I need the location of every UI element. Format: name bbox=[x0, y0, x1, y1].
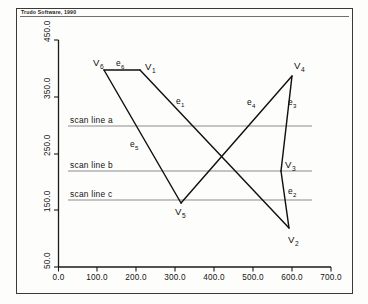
edge-e1 bbox=[140, 70, 289, 228]
x-tick-label-700: 700.0 bbox=[320, 273, 342, 282]
edge-label-e4-sub: 4 bbox=[252, 102, 256, 109]
x-tick-label-600: 600.0 bbox=[281, 273, 303, 282]
vertex-label-v5-sub: 5 bbox=[182, 212, 186, 219]
x-axis-ticks bbox=[59, 267, 332, 272]
x-tick-label-200: 200.0 bbox=[125, 273, 147, 282]
edge-e5 bbox=[104, 70, 181, 203]
edge-label-e6: e 6 bbox=[116, 58, 125, 70]
vertex-label-v2-base: V bbox=[288, 234, 295, 245]
figure-caption: Trudo Software, 1990 bbox=[21, 9, 76, 15]
edge-labels: e 6 e 1 e 4 e 3 e 5 bbox=[116, 58, 297, 198]
y-tick-label-50: 50.0 bbox=[43, 252, 52, 269]
vertex-label-v4-base: V bbox=[294, 60, 301, 71]
edge-label-e6-sub: 6 bbox=[121, 63, 125, 70]
y-tick-label-150: 150.0 bbox=[43, 190, 52, 212]
edge-label-e1-sub: 1 bbox=[181, 101, 185, 108]
vertex-label-v6-base: V bbox=[93, 57, 100, 68]
x-tick-label-300: 300.0 bbox=[164, 273, 186, 282]
vertex-label-v3: V 3 bbox=[285, 159, 296, 172]
y-axis-ticks bbox=[54, 40, 59, 267]
edge-label-e1: e 1 bbox=[176, 96, 185, 108]
scan-line-a-label: scan line a bbox=[70, 115, 113, 125]
scanline-polygon-figure: Trudo Software, 1990 450.0 350.0 250.0 1… bbox=[0, 0, 368, 304]
vertex-label-v3-base: V bbox=[285, 159, 292, 170]
vertex-label-v5: V 5 bbox=[175, 206, 186, 219]
scan-line-c-label: scan line c bbox=[70, 189, 112, 199]
edge-e4 bbox=[181, 76, 292, 203]
x-tick-label-400: 400.0 bbox=[203, 273, 225, 282]
vertex-label-v1: V 1 bbox=[145, 61, 156, 74]
edge-label-e2: e 2 bbox=[288, 186, 297, 198]
edge-label-e5-sub: 5 bbox=[135, 144, 139, 151]
vertex-label-v5-base: V bbox=[175, 206, 182, 217]
x-tick-label-100: 100.0 bbox=[86, 273, 108, 282]
vertex-label-v1-base: V bbox=[145, 61, 152, 72]
vertex-label-v4-sub: 4 bbox=[301, 66, 305, 73]
vertex-label-v2-sub: 2 bbox=[295, 240, 299, 247]
vertex-labels: V 6 V 1 V 4 V 3 V 5 bbox=[93, 57, 305, 247]
x-tick-label-500: 500.0 bbox=[242, 273, 264, 282]
outer-border bbox=[17, 9, 353, 294]
y-tick-label-450: 450.0 bbox=[43, 20, 52, 42]
vertex-label-v3-sub: 3 bbox=[292, 165, 296, 172]
edge-label-e4: e 4 bbox=[247, 97, 256, 109]
x-tick-label-0: 0.0 bbox=[53, 273, 65, 282]
edge-label-e2-sub: 2 bbox=[293, 191, 297, 198]
edge-label-e3-sub: 3 bbox=[293, 102, 297, 109]
polygon-edges bbox=[104, 70, 292, 228]
vertex-label-v6-sub: 6 bbox=[100, 63, 104, 70]
vertex-label-v4: V 4 bbox=[294, 60, 305, 73]
y-tick-label-350: 350.0 bbox=[43, 77, 52, 99]
figure-root: Trudo Software, 1990 450.0 350.0 250.0 1… bbox=[0, 0, 368, 304]
scan-line-b-label: scan line b bbox=[70, 160, 113, 170]
vertex-label-v2: V 2 bbox=[288, 234, 299, 247]
edge-label-e3: e 3 bbox=[288, 97, 297, 109]
y-tick-label-250: 250.0 bbox=[43, 134, 52, 156]
vertex-label-v6: V 6 bbox=[93, 57, 104, 70]
vertex-label-v1-sub: 1 bbox=[152, 67, 156, 74]
edge-e3 bbox=[281, 76, 292, 171]
scanline-group: scan line a scan line b scan line c bbox=[68, 115, 312, 200]
edge-label-e5: e 5 bbox=[130, 139, 139, 151]
